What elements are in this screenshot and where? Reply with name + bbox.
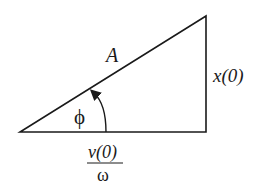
angle-label: ϕ <box>74 105 85 129</box>
angle-arc-arrow <box>94 93 106 132</box>
base-denominator-label: ω <box>97 165 109 185</box>
triangle <box>20 16 206 132</box>
base-numerator-label: v(0) <box>88 142 117 163</box>
vertical-side-label: x(0) <box>212 65 244 87</box>
triangle-diagram: A x(0) ϕ v(0) ω <box>0 0 267 193</box>
hypotenuse-label: A <box>104 44 119 66</box>
